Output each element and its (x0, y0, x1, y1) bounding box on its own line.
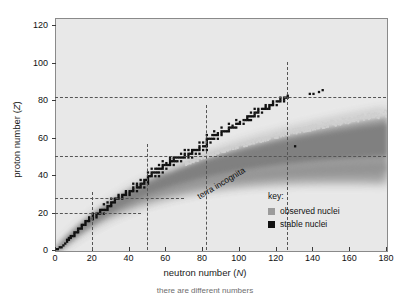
y-tick-mark (52, 63, 56, 64)
legend-label-stable: stable nuclei (280, 218, 327, 231)
stable-nuclei-swatch-icon (268, 221, 275, 228)
y-tick-mark (52, 25, 56, 26)
x-tick-mark (386, 247, 387, 251)
y-axis-title: proton number (Z) (11, 80, 22, 200)
observed-nuclei-swatch-icon (268, 208, 275, 215)
x-tick-mark (165, 247, 166, 251)
figure-caption: there are different numbers (0, 286, 410, 297)
y-tick-label: 80 (22, 95, 48, 105)
x-tick-mark (239, 247, 240, 251)
legend-title: key: (268, 190, 340, 203)
legend-item-stable: stable nuclei (268, 218, 340, 231)
x-tick-mark (349, 247, 350, 251)
y-axis-title-text: proton number ( (11, 110, 22, 178)
nuclide-chart-figure: 020406080100120140160180020406080100120t… (0, 0, 410, 297)
x-tick-label: 60 (160, 253, 170, 263)
x-axis-title-close: ) (243, 267, 246, 278)
legend-label-observed: observed nuclei (280, 205, 340, 218)
x-tick-mark (129, 247, 130, 251)
x-tick-label: 140 (305, 253, 320, 263)
y-tick-mark (52, 250, 56, 251)
x-tick-label: 20 (87, 253, 97, 263)
magic-number-line-proton (55, 97, 386, 98)
magic-number-line-proton (55, 198, 184, 199)
y-tick-label: 0 (22, 245, 48, 255)
y-tick-mark (52, 100, 56, 101)
x-tick-mark (276, 247, 277, 251)
y-tick-label: 100 (22, 58, 48, 68)
y-tick-mark (52, 175, 56, 176)
x-tick-label: 100 (231, 253, 246, 263)
magic-number-line-neutron (206, 105, 207, 250)
legend-item-observed: observed nuclei (268, 205, 340, 218)
y-tick-mark (52, 138, 56, 139)
y-axis-title-close: ) (11, 101, 22, 104)
x-tick-label: 0 (52, 253, 57, 263)
y-tick-label: 120 (22, 20, 48, 30)
x-axis-title-text: neutron number ( (164, 267, 237, 278)
x-tick-label: 80 (197, 253, 207, 263)
x-tick-mark (202, 247, 203, 251)
y-tick-label: 60 (22, 133, 48, 143)
x-tick-label: 40 (124, 253, 134, 263)
y-tick-label: 20 (22, 208, 48, 218)
y-axis-symbol: Z (11, 104, 22, 110)
magic-number-line-neutron (92, 192, 93, 250)
magic-number-line-proton (55, 156, 386, 157)
y-tick-label: 40 (22, 170, 48, 180)
x-tick-label: 180 (378, 253, 393, 263)
x-tick-label: 160 (342, 253, 357, 263)
x-tick-label: 120 (268, 253, 283, 263)
x-axis-title: neutron number (N) (0, 267, 410, 278)
magic-number-line-proton (55, 213, 141, 214)
legend: key: observed nuclei stable nuclei (268, 190, 340, 231)
x-tick-mark (312, 247, 313, 251)
